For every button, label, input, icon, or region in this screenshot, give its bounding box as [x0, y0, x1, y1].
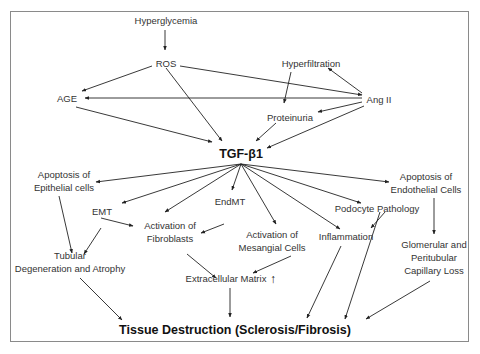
node-activation-fibroblasts-line1: Activation of [144, 220, 196, 231]
node-emt: EMT [92, 206, 112, 217]
node-ros: ROS [156, 58, 177, 69]
node-podocyte-pathology: Podocyte Pathology [335, 203, 420, 214]
node-apoptosis-epithelial-line2: Epithelial cells [34, 182, 94, 193]
node-proteinuria: Proteinuria [267, 112, 314, 123]
increase-arrow-icon: ↑ [270, 272, 276, 286]
node-apoptosis-endothelial-line1: Apoptosis of [400, 171, 453, 182]
node-extracellular-matrix: Extracellular Matrix [186, 273, 267, 284]
node-tissue-destruction: Tissue Destruction (Sclerosis/Fibrosis) [119, 323, 351, 337]
node-tubular-line2: Degeneration and Atrophy [15, 263, 126, 274]
node-activation-mesangial-line2: Mesangial Cells [238, 242, 305, 253]
node-capillary-loss-line2: Peritubular [411, 252, 457, 263]
pathway-diagram: Hyperglycemia ROS Hyperfiltration AGE An… [0, 0, 480, 354]
node-ang-ii: Ang II [367, 94, 392, 105]
node-capillary-loss-line3: Capillary Loss [404, 265, 464, 276]
node-inflammation: Inflammation [319, 231, 373, 242]
node-apoptosis-epithelial-line1: Apoptosis of [38, 169, 91, 180]
node-activation-mesangial-line1: Activation of [246, 229, 298, 240]
node-hyperfiltration: Hyperfiltration [282, 58, 341, 69]
node-hyperglycemia: Hyperglycemia [135, 15, 199, 26]
node-endmt: EndMT [215, 196, 246, 207]
node-age: AGE [57, 93, 77, 104]
node-tubular-line1: Tubular [54, 250, 86, 261]
node-tgf-beta1: TGF-β1 [219, 147, 263, 161]
node-capillary-loss-line1: Glomerular and [401, 239, 466, 250]
node-apoptosis-endothelial-line2: Endothelial Cells [391, 184, 462, 195]
node-activation-fibroblasts-line2: Fibroblasts [147, 233, 194, 244]
